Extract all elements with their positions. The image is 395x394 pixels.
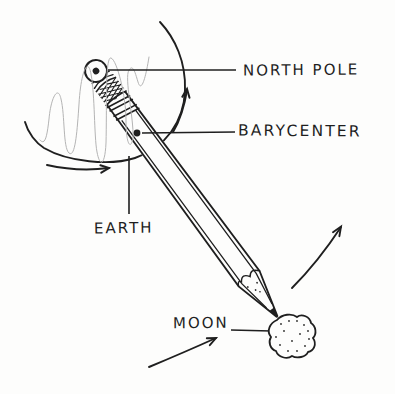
barycenter-label: BARYCENTER <box>238 121 362 140</box>
moon-orbit-arrow-upper <box>292 227 341 289</box>
pencil-body-fill <box>88 67 288 325</box>
earth-rotation-arrow-bottom <box>47 165 109 173</box>
north-pole-label: NORTH POLE <box>243 60 359 79</box>
sketch-canvas: NORTH POLE BARYCENTER EARTH MOON <box>0 0 395 394</box>
moon-orbit-arrow-lower <box>149 338 216 367</box>
moon-rock <box>269 315 316 358</box>
barycenter-dot <box>134 130 141 137</box>
moon-label: MOON <box>173 314 229 332</box>
earth-moon-pencil-diagram <box>0 0 395 394</box>
barycenter-leader-line <box>142 132 235 133</box>
earth-label: EARTH <box>94 219 154 238</box>
moon-leader-line <box>231 330 271 331</box>
